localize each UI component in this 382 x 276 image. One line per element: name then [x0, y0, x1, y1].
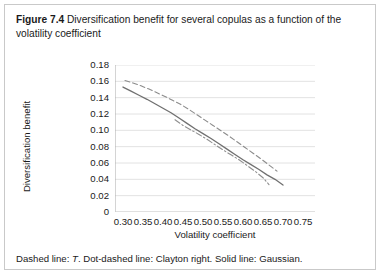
y-tick-label: 0.16	[90, 76, 109, 86]
figure-caption-bottom: Dashed line: T. Dot-dashed line: Clayton…	[16, 253, 366, 264]
x-tick-label: 0.70	[274, 216, 293, 228]
x-tick-label: 0.45	[174, 216, 193, 228]
y-axis-tick-labels: 00.020.040.060.080.100.120.140.160.18	[65, 53, 109, 218]
x-axis-tick-labels: 0.300.350.400.450.500.550.600.650.700.75	[115, 216, 315, 230]
figure-label: Figure 7.4	[16, 14, 64, 25]
x-tick-label: 0.30	[114, 216, 133, 228]
y-tick-label: 0.12	[90, 109, 109, 119]
figure-frame: Figure 7.4 Diversification benefit for s…	[4, 4, 376, 270]
figure-caption-top: Figure 7.4 Diversification benefit for s…	[16, 13, 364, 41]
y-tick-label: 0.14	[90, 93, 109, 103]
y-tick-label: 0.04	[90, 174, 109, 184]
y-axis-title: Diversification benefit	[21, 82, 32, 212]
y-tick-label: 0.06	[90, 158, 109, 168]
x-tick-label: 0.60	[234, 216, 253, 228]
y-tick-label: 0	[104, 207, 109, 217]
plot-area	[115, 65, 315, 212]
chart-svg	[115, 65, 315, 212]
series-line-gaussian	[123, 87, 283, 185]
x-tick-label: 0.75	[294, 216, 313, 228]
x-tick-label: 0.35	[134, 216, 153, 228]
legend-note-suffix: . Dot-dashed line: Clayton right. Solid …	[78, 253, 303, 264]
x-tick-label: 0.50	[194, 216, 213, 228]
y-tick-label: 0.10	[90, 125, 109, 135]
series-line-t	[125, 81, 277, 172]
chart-container: Diversification benefit 00.020.040.060.0…	[5, 53, 377, 243]
series-line-clayton-right	[175, 120, 269, 185]
x-tick-label: 0.55	[214, 216, 233, 228]
y-tick-label: 0.08	[90, 142, 109, 152]
y-tick-label: 0.02	[90, 191, 109, 201]
legend-note-prefix: Dashed line:	[16, 253, 72, 264]
y-tick-label: 0.18	[90, 60, 109, 70]
x-tick-label: 0.40	[154, 216, 173, 228]
figure-caption-text: Diversification benefit for several copu…	[16, 14, 341, 39]
x-tick-label: 0.65	[254, 216, 273, 228]
x-axis-title: Volatility coefficient	[115, 229, 315, 240]
